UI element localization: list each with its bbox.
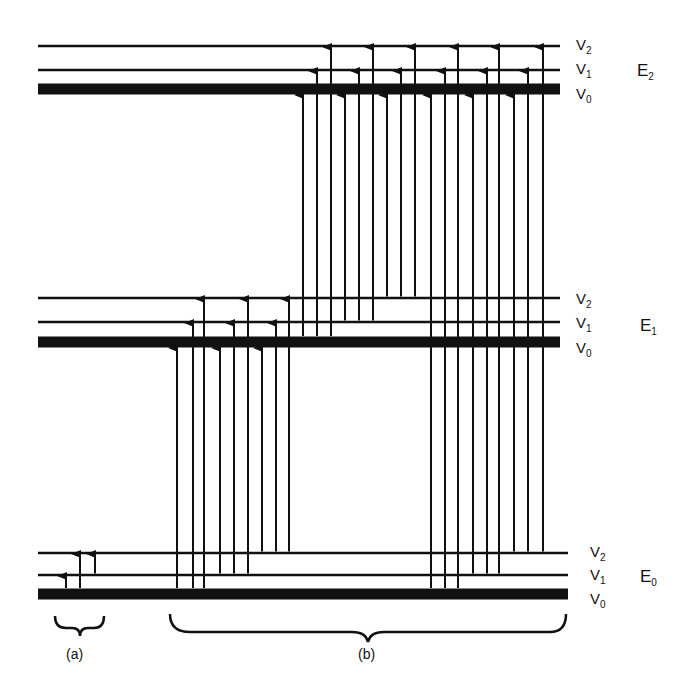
label-e2-v2: V2 bbox=[576, 37, 592, 56]
label-e1-v2: V2 bbox=[576, 291, 592, 310]
group-b-label: (b) bbox=[358, 646, 375, 662]
label-e0: E0 bbox=[640, 568, 657, 588]
label-e2-v1: V1 bbox=[576, 61, 592, 80]
transition-arrows bbox=[66, 47, 543, 588]
label-e2: E2 bbox=[637, 62, 654, 82]
brace-b bbox=[170, 614, 566, 642]
brace-a bbox=[55, 616, 104, 636]
label-e1-v1: V1 bbox=[576, 315, 592, 334]
label-e0-v1: V1 bbox=[590, 567, 606, 586]
label-e2-v0: V0 bbox=[576, 86, 592, 105]
label-e0-v2: V2 bbox=[590, 544, 606, 563]
energy-level-diagram bbox=[0, 0, 698, 690]
group-a-label: (a) bbox=[66, 646, 83, 662]
label-e1: E1 bbox=[640, 317, 657, 337]
label-e0-v0: V0 bbox=[590, 591, 606, 610]
label-e1-v0: V0 bbox=[576, 340, 592, 359]
